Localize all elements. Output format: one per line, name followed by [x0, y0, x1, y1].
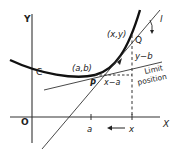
tangent-limit-diagram: Y X O C (a,b) P (x,y) Q l y−b x−a Limit …: [0, 0, 178, 149]
point-p-label: P: [90, 79, 96, 88]
horizontal-diff-label: x−a: [103, 78, 120, 87]
secant-label-l: l: [160, 14, 163, 24]
approach-arrowhead: [107, 126, 112, 131]
point-q-coords: (x,y): [107, 29, 126, 39]
origin-label: O: [21, 117, 29, 127]
rotation-arrow-icon: [150, 20, 152, 30]
curve-label-c: C: [36, 67, 42, 77]
rotation-arrowhead: [150, 30, 154, 34]
point-p-coords: (a,b): [72, 63, 92, 73]
point-q-label: Q: [135, 35, 142, 45]
x-axis-label: X: [162, 119, 170, 129]
tick-label-x: x: [128, 124, 135, 134]
tangent-label-position: position: [137, 72, 168, 87]
diagram-canvas: Y X O C (a,b) P (x,y) Q l y−b x−a Limit …: [0, 0, 178, 149]
tick-label-a: a: [87, 124, 92, 134]
vertical-diff-label: y−b: [134, 51, 153, 61]
y-axis-label: Y: [23, 14, 31, 24]
